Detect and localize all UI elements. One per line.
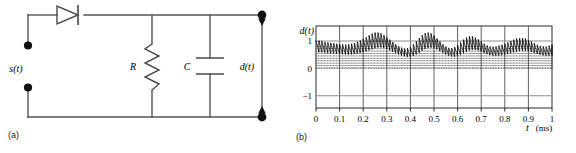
y-axis-title: d(t): [300, 25, 315, 37]
caption-panel-a: (a): [8, 130, 19, 140]
output-terminal-top-dot[interactable]: [258, 11, 267, 20]
x-axis-tick-marks: [316, 108, 552, 112]
x-tick-label: 0.8: [499, 114, 511, 124]
capacitor-icon: [196, 58, 224, 74]
figure-root: s(t) R C d(t) (a) 00.10.20.30.40.50.60.7…: [0, 0, 576, 153]
x-tick-label: 0.7: [476, 114, 488, 124]
x-tick-label: 0.1: [334, 114, 345, 124]
x-axis-title-unit: (ms): [536, 123, 553, 133]
x-tick-label: 0.5: [428, 114, 440, 124]
x-axis-title-var: t: [526, 122, 529, 133]
y-tick-label: 0: [308, 64, 313, 74]
diode-triangle: [57, 6, 78, 24]
label-input-signal: s(t): [9, 63, 23, 75]
label-output-signal: d(t): [240, 61, 255, 73]
voltage-arrow-down-icon: [258, 106, 266, 114]
diode-icon: [57, 5, 78, 25]
input-terminal-top-dot[interactable]: [24, 41, 32, 49]
label-resistor: R: [129, 61, 136, 72]
label-capacitor: C: [184, 61, 191, 72]
voltage-arrow-up-icon: [258, 19, 266, 27]
x-tick-label: 0.4: [405, 114, 417, 124]
panel-waveform-plot: 00.10.20.30.40.50.60.70.80.91 10−1 d(t) …: [288, 0, 576, 153]
resistor-icon: [145, 44, 159, 90]
caption-panel-b: (b): [296, 132, 307, 142]
x-axis-title: t (ms): [526, 117, 552, 134]
x-tick-label: 0.3: [381, 114, 393, 124]
panel-circuit-diagram: s(t) R C d(t) (a): [0, 0, 288, 153]
circuit-svg: s(t) R C d(t): [0, 0, 288, 153]
x-axis-tick-labels: 00.10.20.30.40.50.60.70.80.91: [314, 114, 555, 124]
x-tick-label: 0.2: [358, 114, 369, 124]
y-axis-tick-labels: 10−1: [302, 36, 312, 101]
y-tick-label: 1: [308, 36, 313, 46]
output-terminal-bottom-dot[interactable]: [258, 113, 267, 122]
input-terminal-bottom-dot[interactable]: [24, 83, 32, 91]
x-tick-label: 0.6: [452, 114, 464, 124]
waveform-svg: 00.10.20.30.40.50.60.70.80.91 10−1 d(t) …: [288, 0, 576, 153]
x-tick-label: 0: [314, 114, 319, 124]
y-tick-label: −1: [302, 91, 312, 101]
